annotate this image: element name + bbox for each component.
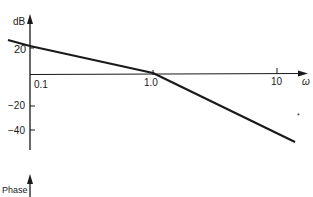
y-axis-label: dB <box>13 17 25 27</box>
x-tick-label-1-0: 1.0 <box>144 78 158 88</box>
x-tick-label-0-1: 0.1 <box>34 80 48 90</box>
x-axis <box>30 74 300 75</box>
y-tick-label-20: 20 <box>14 44 26 55</box>
bode-magnitude-chart <box>0 0 313 197</box>
x-axis-label: ω <box>302 77 310 87</box>
phase-axis-arrow-icon <box>27 174 33 184</box>
y-tick-label-m40: −40 <box>8 126 25 136</box>
y-axis-arrow-icon <box>27 14 33 24</box>
x-tick-label-10: 10 <box>271 77 282 87</box>
phase-axis-label: Phase <box>2 186 28 195</box>
y-tick-label-m20: −20 <box>8 101 25 111</box>
magnitude-curve <box>8 40 295 142</box>
annotation-asterisk: * <box>297 112 300 119</box>
